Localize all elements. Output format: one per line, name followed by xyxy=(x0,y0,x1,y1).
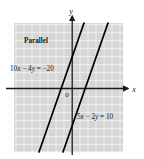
figure-container: y x 0 Parallel 10x − 4y = −20 5x − 2y = … xyxy=(0,0,144,159)
x-axis-label: x xyxy=(131,85,136,94)
parallel-annotation: Parallel xyxy=(24,37,48,45)
y-axis-label: y xyxy=(68,7,73,16)
eq2-rhs: 10 xyxy=(106,113,114,121)
coordinate-graph: y x 0 Parallel 10x − 4y = −20 5x − 2y = … xyxy=(0,0,144,159)
equation-label-2: 5x − 2y = 10 xyxy=(77,113,114,121)
eq1-rhs: −20 xyxy=(43,65,55,73)
origin-label: 0 xyxy=(65,91,69,99)
equation-label-1: 10x − 4y = −20 xyxy=(10,65,54,73)
